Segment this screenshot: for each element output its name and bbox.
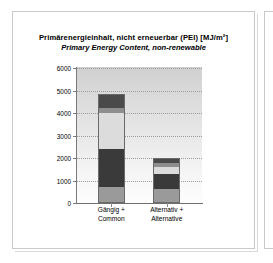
chart-page: Primärenergieinhalt, nicht erneuerbar (P… bbox=[0, 0, 273, 263]
chart-subtitle: Primary Energy Content, non-renewable bbox=[18, 43, 249, 53]
bar-segment-1[interactable] bbox=[153, 189, 180, 203]
y-axis-tick bbox=[73, 68, 77, 69]
y-axis-tick bbox=[73, 203, 77, 204]
bar-segment-5[interactable] bbox=[98, 94, 125, 108]
gridline bbox=[77, 181, 202, 182]
chart-title: Primärenergieinhalt, nicht erneuerbar (P… bbox=[18, 33, 249, 43]
adjacent-page-edge bbox=[264, 11, 273, 249]
y-axis-tick-label: 4000 bbox=[57, 110, 71, 117]
bar-segment-2[interactable] bbox=[153, 174, 180, 188]
gridline bbox=[77, 158, 202, 159]
bar-segment-3[interactable] bbox=[153, 167, 180, 174]
y-axis-tick-label: 2000 bbox=[57, 155, 71, 162]
bar-segment-2[interactable] bbox=[98, 149, 125, 188]
bar-1[interactable] bbox=[98, 94, 125, 203]
category-label-2: Alternativ +Alternative bbox=[127, 206, 207, 223]
bar-2[interactable] bbox=[153, 158, 180, 203]
y-axis-tick bbox=[73, 181, 77, 182]
category-label-line2: Alternative bbox=[127, 215, 207, 224]
gridline bbox=[77, 68, 202, 69]
y-axis-tick-label: 6000 bbox=[57, 65, 71, 72]
bar-segment-1[interactable] bbox=[98, 187, 125, 203]
y-axis-tick bbox=[73, 158, 77, 159]
category-label-line1: Alternativ + bbox=[127, 206, 207, 215]
y-axis-tick-label: 3000 bbox=[57, 132, 71, 139]
plot-area-wrapper: 6000500040003000200010000 Gängig +Common… bbox=[76, 67, 202, 204]
y-axis-tick-label: 1000 bbox=[57, 177, 71, 184]
gridline bbox=[77, 113, 202, 114]
y-axis-tick-label: 5000 bbox=[57, 87, 71, 94]
gridline bbox=[77, 136, 202, 137]
bar-segment-3[interactable] bbox=[98, 113, 125, 148]
y-axis-tick bbox=[73, 113, 77, 114]
y-axis-tick bbox=[73, 91, 77, 92]
y-axis-tick bbox=[73, 136, 77, 137]
x-axis-line bbox=[76, 203, 203, 204]
gridline bbox=[77, 91, 202, 92]
